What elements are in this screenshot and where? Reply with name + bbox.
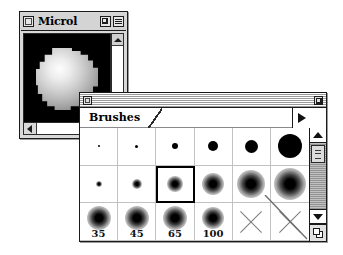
soft-brush-dot — [274, 168, 306, 200]
brush-cell[interactable] — [80, 166, 118, 204]
palette-vertical-scrollbar[interactable] — [309, 128, 326, 241]
brush-cell[interactable]: 100 — [195, 203, 233, 241]
brush-size-label: 35 — [80, 229, 117, 239]
brush-cell[interactable] — [271, 166, 309, 204]
close-box-icon[interactable] — [83, 96, 92, 105]
scroll-left-arrow-icon[interactable] — [24, 123, 37, 134]
brush-cell[interactable] — [118, 128, 156, 166]
brush-cell[interactable] — [271, 128, 309, 166]
brush-cell[interactable] — [233, 203, 271, 241]
brush-cell[interactable] — [271, 203, 309, 241]
hard-brush-dot — [208, 141, 218, 151]
brush-cell[interactable] — [233, 128, 271, 166]
tab-brushes-label: Brushes — [89, 111, 140, 124]
soft-brush-dot — [125, 206, 149, 230]
soft-brush-dot — [96, 181, 102, 187]
zoom-box-icon[interactable] — [100, 16, 111, 27]
scrollbar-thumb[interactable] — [311, 145, 325, 163]
soft-brush-dot — [132, 179, 142, 189]
palette-body: Brushes 354565100 — [80, 108, 326, 241]
brush-cell[interactable] — [195, 166, 233, 204]
soft-brush-dot — [202, 173, 224, 195]
soft-brush-dot — [202, 207, 224, 229]
palette-menu-triangle-icon[interactable] — [292, 108, 309, 128]
grow-box-icon[interactable] — [310, 224, 326, 241]
brush-size-label: 100 — [195, 229, 232, 239]
soft-brush-dot — [163, 206, 187, 230]
hard-brush-dot — [245, 140, 258, 153]
document-titlebar[interactable]: Microl — [21, 13, 126, 31]
brush-cell[interactable] — [233, 166, 271, 204]
scrollbar-track[interactable] — [310, 143, 326, 209]
brush-cell[interactable] — [118, 166, 156, 204]
tab-brushes[interactable]: Brushes — [81, 108, 156, 127]
brush-grid[interactable]: 354565100 — [80, 128, 309, 241]
hard-brush-dot — [98, 145, 100, 147]
brush-size-label: 45 — [118, 229, 155, 239]
brush-size-label: 65 — [156, 229, 193, 239]
brushes-palette-window[interactable]: Brushes 354565100 — [79, 92, 327, 242]
hard-brush-dot — [278, 134, 302, 158]
document-title: Microl — [34, 16, 100, 28]
soft-brush-dot — [237, 170, 265, 198]
hard-brush-dot — [172, 143, 178, 149]
collapse-box-icon[interactable] — [113, 16, 124, 27]
zoom-box-icon[interactable] — [314, 96, 323, 105]
brush-cell[interactable] — [156, 128, 194, 166]
scroll-up-arrow-icon[interactable] — [112, 34, 123, 46]
hard-brush-dot — [135, 145, 138, 148]
brush-cell[interactable]: 35 — [80, 203, 118, 241]
brush-cell[interactable]: 65 — [156, 203, 194, 241]
brush-cell[interactable] — [195, 128, 233, 166]
brush-cell[interactable] — [156, 166, 194, 204]
soft-brush-dot — [87, 206, 111, 230]
scroll-up-arrow-icon[interactable] — [310, 128, 326, 143]
palette-tabstrip: Brushes — [80, 108, 309, 128]
scroll-down-arrow-icon[interactable] — [310, 209, 326, 224]
palette-titlebar[interactable] — [80, 93, 326, 108]
close-box-icon[interactable] — [23, 16, 34, 27]
soft-brush-dot — [167, 176, 183, 192]
brush-cell[interactable]: 45 — [118, 203, 156, 241]
brush-cell[interactable] — [80, 128, 118, 166]
